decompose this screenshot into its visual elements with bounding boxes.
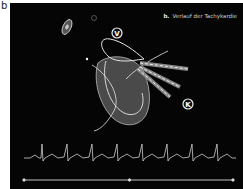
diagram-panel: b.Verlauf der Tachykardie V: [10, 3, 243, 189]
panel-letter: b: [1, 1, 7, 11]
v-label: V: [112, 28, 122, 38]
heart-diagram: V K: [10, 3, 243, 189]
small-circle-icon: [92, 16, 97, 21]
svg-text:K: K: [185, 101, 191, 109]
k-label: K: [183, 99, 193, 109]
svg-text:V: V: [114, 30, 120, 38]
timeline: [23, 179, 234, 181]
ecg-trace: [24, 144, 236, 161]
ellipse-icon: [60, 18, 74, 36]
